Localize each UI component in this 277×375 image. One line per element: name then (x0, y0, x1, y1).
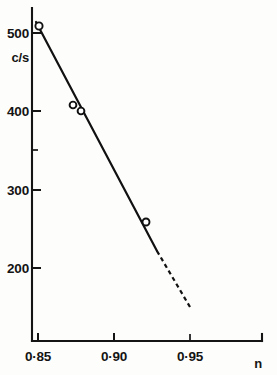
y-axis-title: c/s (12, 50, 29, 65)
data-point-2 (70, 102, 77, 109)
data-point-1 (35, 22, 42, 29)
fit-line-dashed-extrapolation (157, 251, 190, 307)
fit-line-solid (36, 22, 157, 251)
data-point-3 (78, 108, 85, 115)
data-point-4 (143, 219, 150, 226)
x-tick-label-0-95: 0·95 (177, 349, 204, 364)
axis-group (32, 8, 262, 341)
x-tick-label-0-85: 0·85 (25, 349, 52, 364)
y-tick-label-500: 500 (7, 26, 29, 41)
y-tick-label-200: 200 (7, 261, 29, 276)
x-tick-label-0-90: 0·90 (101, 349, 127, 364)
y-tick-label-400: 400 (7, 104, 29, 119)
y-tick-label-300: 300 (7, 183, 29, 198)
chart-figure: 500 400 300 200 c/s 0·85 0·90 0·95 n (0, 0, 277, 375)
x-axis-title: n (254, 356, 262, 371)
x-tick-labels: 0·85 0·90 0·95 (25, 349, 204, 364)
y-tick-group (32, 33, 41, 268)
scatter-plot-svg: 500 400 300 200 c/s 0·85 0·90 0·95 n (0, 0, 277, 375)
x-tick-group (38, 333, 190, 341)
